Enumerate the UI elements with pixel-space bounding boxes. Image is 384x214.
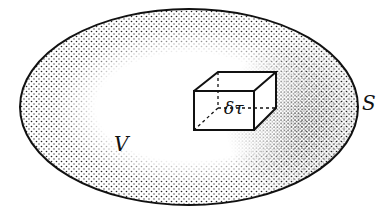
volume-stipple xyxy=(0,0,384,214)
element-label: δτ xyxy=(224,98,244,118)
volume-label: V xyxy=(114,132,131,156)
surface-label: S xyxy=(362,91,376,115)
diagram-canvas: δτ S V xyxy=(0,0,384,214)
